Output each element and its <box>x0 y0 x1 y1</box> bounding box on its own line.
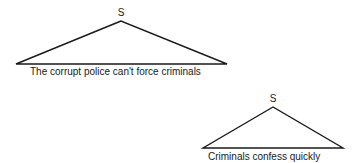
tree-2-triangle <box>203 107 343 148</box>
tree-2-yield-text: Criminals confess quickly <box>208 151 320 162</box>
tree-1-triangle <box>16 21 227 64</box>
tree-1-node-label: S <box>118 8 125 18</box>
syntax-tree-diagram <box>0 0 363 163</box>
tree-1-yield-text: The corrupt police can't force criminals <box>30 66 201 77</box>
tree-2-node-label: S <box>270 94 277 104</box>
